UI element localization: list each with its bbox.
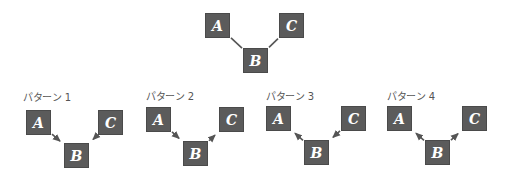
pattern-1-node-a: A bbox=[26, 110, 51, 135]
pattern-4-node-b: B bbox=[425, 140, 450, 165]
top-node-b: B bbox=[243, 48, 268, 73]
pattern-4-node-c: C bbox=[462, 106, 487, 131]
pattern-3-node-b: B bbox=[304, 140, 329, 165]
pattern-2-node-a: A bbox=[146, 107, 171, 132]
pattern-3-node-a: A bbox=[266, 106, 291, 131]
pattern-2-node-b: B bbox=[183, 141, 208, 166]
pattern-1-node-c: C bbox=[98, 110, 123, 135]
node-label-c: C bbox=[348, 112, 359, 126]
arrow-icon bbox=[295, 133, 303, 140]
arrow-icon bbox=[451, 134, 458, 140]
node-label-b: B bbox=[311, 146, 323, 160]
arrow-icon bbox=[209, 135, 215, 141]
pattern-4-label: パターン 4 bbox=[387, 91, 435, 103]
top-node-c: C bbox=[279, 13, 304, 38]
arrow-icon bbox=[333, 131, 340, 137]
node-label-a: A bbox=[33, 116, 44, 130]
arrow-icon bbox=[172, 132, 179, 138]
node-label-a: A bbox=[394, 112, 405, 126]
node-label-b: B bbox=[250, 54, 262, 68]
top-node-a: A bbox=[205, 13, 230, 38]
node-label-c: C bbox=[105, 116, 116, 130]
pattern-3-node-c: C bbox=[341, 106, 366, 131]
node-label-a: A bbox=[212, 19, 223, 33]
connector-line bbox=[231, 38, 242, 48]
node-label-c: C bbox=[226, 113, 237, 127]
node-label-b: B bbox=[190, 147, 202, 161]
node-label-b: B bbox=[71, 149, 83, 163]
arrow-icon bbox=[93, 136, 97, 140]
pattern-4-node-a: A bbox=[387, 106, 412, 131]
arrow-icon bbox=[52, 134, 60, 141]
diagram-canvas: A C B パターン 1 A C B パターン 2 A C B bbox=[0, 0, 508, 179]
node-label-c: C bbox=[286, 19, 297, 33]
node-label-c: C bbox=[469, 112, 480, 126]
pattern-3-label: パターン 3 bbox=[266, 91, 314, 103]
pattern-2-node-c: C bbox=[219, 107, 244, 132]
pattern-1-label: パターン 1 bbox=[23, 92, 71, 104]
arrow-icon bbox=[416, 133, 424, 140]
pattern-1-node-b: B bbox=[64, 143, 89, 168]
node-label-b: B bbox=[432, 146, 444, 160]
connector-line bbox=[269, 39, 278, 48]
pattern-2-label: パターン 2 bbox=[146, 91, 194, 103]
node-label-a: A bbox=[273, 112, 284, 126]
node-label-a: A bbox=[153, 113, 164, 127]
